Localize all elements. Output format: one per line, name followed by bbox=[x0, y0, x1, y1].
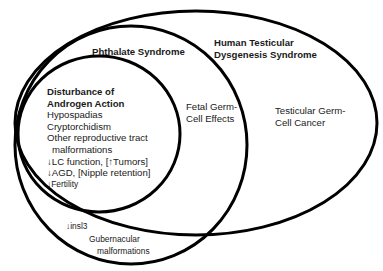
gubernacular-label: Gubernacular malformations bbox=[89, 234, 150, 257]
human-tds-title-line2: Dysgenesis Syndrome bbox=[214, 49, 317, 61]
fetal-line1: Fetal Germ- bbox=[186, 101, 237, 113]
fetal-line2: Cell Effects bbox=[186, 113, 237, 125]
gub-line1: Gubernacular bbox=[89, 234, 150, 246]
phthalate-syndrome-title: Phthalate Syndrome bbox=[92, 46, 185, 58]
testicular-cancer-label: Testicular Germ- Cell Cancer bbox=[275, 105, 345, 128]
fetal-germ-cell-label: Fetal Germ- Cell Effects bbox=[186, 101, 237, 124]
androgen-item-malformations: malformations bbox=[47, 144, 150, 156]
androgen-item-lc-function: ↓LC function, [↑Tumors] bbox=[47, 156, 150, 168]
gub-line2: malformations bbox=[89, 246, 150, 258]
androgen-item-cryptorchidism: Cryptorchidism bbox=[47, 121, 150, 133]
human-tds-title: Human Testicular Dysgenesis Syndrome bbox=[214, 37, 317, 60]
insl3-label: ↓insl3 bbox=[66, 221, 87, 233]
androgen-title-line1: Disturbance of bbox=[47, 86, 150, 98]
androgen-item-other-tract: Other reproductive tract bbox=[47, 132, 150, 144]
androgen-action-block: Disturbance of Androgen Action Hypospadi… bbox=[47, 86, 150, 190]
human-tds-title-line1: Human Testicular bbox=[214, 37, 317, 49]
androgen-item-fertility: ↓Fertility bbox=[47, 179, 150, 191]
androgen-item-hypospadias: Hypospadias bbox=[47, 109, 150, 121]
androgen-title-line2: Androgen Action bbox=[47, 98, 150, 110]
tgcc-line2: Cell Cancer bbox=[275, 117, 345, 129]
androgen-item-agd: ↓AGD, [Nipple retention] bbox=[47, 167, 150, 179]
tgcc-line1: Testicular Germ- bbox=[275, 105, 345, 117]
